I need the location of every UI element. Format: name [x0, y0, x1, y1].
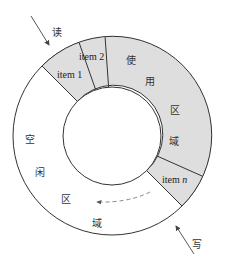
circular-buffer-diagram: 读 写 item 1 item 2 item n 使 用 区 域 空 闲 区 域	[0, 0, 228, 266]
read-pointer-arrow	[31, 16, 49, 45]
buffer-inner-hole	[63, 87, 161, 185]
used-char-3: 区	[170, 105, 180, 116]
used-char-4: 域	[169, 135, 179, 147]
free-char-1: 空	[25, 133, 35, 145]
used-char-1: 使	[126, 54, 136, 66]
item-2-label: item 2	[79, 51, 104, 62]
read-pointer-label: 读	[52, 26, 62, 38]
free-char-2: 闲	[35, 166, 45, 178]
item-n-label: item n	[162, 174, 187, 185]
item-n-var: n	[182, 174, 187, 185]
free-char-4: 域	[92, 217, 102, 229]
write-pointer-label: 写	[192, 239, 202, 250]
item-1-label: item 1	[57, 69, 82, 80]
item-n-prefix: item	[162, 174, 182, 185]
free-char-3: 区	[61, 194, 71, 205]
used-char-2: 用	[145, 76, 155, 87]
